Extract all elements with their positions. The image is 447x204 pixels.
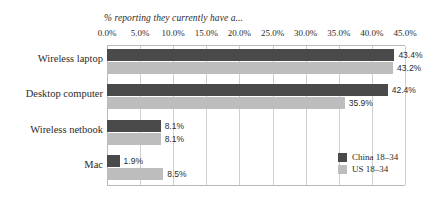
bar[interactable]: [107, 168, 163, 180]
bar-value-label: 8.5%: [167, 169, 186, 179]
chart-legend: China 18–34US 18–34: [338, 152, 398, 174]
bar-value-label: 8.1%: [165, 134, 184, 144]
category-label: Wireless netbook: [0, 124, 103, 135]
bar[interactable]: [107, 84, 388, 96]
category-label: Wireless laptop: [0, 53, 103, 64]
legend-label: US 18–34: [352, 164, 388, 174]
bar-item[interactable]: 1.9%: [107, 155, 143, 167]
legend-swatch-icon: [338, 165, 347, 174]
bar-chart: % reporting they currently have a... 0.0…: [0, 0, 447, 204]
x-tick-label: 20.0%: [228, 28, 251, 38]
x-tick-label: 30.0%: [294, 28, 317, 38]
bar-value-label: 42.4%: [392, 85, 416, 95]
bar-value-label: 1.9%: [124, 156, 143, 166]
bar[interactable]: [107, 49, 394, 61]
x-tick-label: 45.0%: [393, 28, 416, 38]
bar-value-label: 8.1%: [165, 121, 184, 131]
x-tick-label: 0.0%: [98, 28, 117, 38]
bar-group: 42.4%35.9%: [107, 80, 405, 115]
bar[interactable]: [107, 155, 120, 167]
legend-item[interactable]: China 18–34: [338, 152, 398, 162]
legend-swatch-icon: [338, 153, 347, 162]
bar[interactable]: [107, 133, 161, 145]
bar-item[interactable]: 8.1%: [107, 133, 184, 145]
bar-group: 43.4%43.2%: [107, 45, 405, 80]
bar-item[interactable]: 43.4%: [107, 49, 423, 61]
x-tick-label: 35.0%: [327, 28, 350, 38]
bar-value-label: 43.4%: [398, 50, 422, 60]
bar-value-label: 35.9%: [349, 98, 373, 108]
x-tick-label: 15.0%: [195, 28, 218, 38]
x-axis-tick-labels: 0.0%5.0%10.0%15.0%20.0%25.0%30.0%35.0%40…: [0, 28, 447, 42]
x-tick-label: 10.0%: [162, 28, 185, 38]
bar[interactable]: [107, 62, 393, 74]
bar[interactable]: [107, 97, 345, 109]
legend-item[interactable]: US 18–34: [338, 164, 398, 174]
bar-item[interactable]: 42.4%: [107, 84, 416, 96]
category-label: Desktop computer: [0, 88, 103, 99]
bar-group: 8.1%8.1%: [107, 116, 405, 151]
bar-value-label: 43.2%: [397, 63, 421, 73]
x-tick-label: 40.0%: [360, 28, 383, 38]
x-tick-label: 25.0%: [261, 28, 284, 38]
bar-item[interactable]: 35.9%: [107, 97, 373, 109]
bar[interactable]: [107, 120, 161, 132]
bar-item[interactable]: 8.1%: [107, 120, 184, 132]
x-tick-label: 5.0%: [131, 28, 150, 38]
category-label: Mac: [0, 159, 103, 170]
chart-title: % reporting they currently have a...: [104, 13, 243, 23]
bar-item[interactable]: 8.5%: [107, 168, 187, 180]
bar-item[interactable]: 43.2%: [107, 62, 421, 74]
y-axis-category-labels: Wireless laptopDesktop computerWireless …: [0, 45, 103, 186]
legend-label: China 18–34: [352, 152, 398, 162]
